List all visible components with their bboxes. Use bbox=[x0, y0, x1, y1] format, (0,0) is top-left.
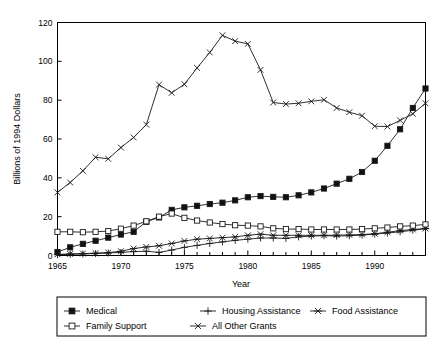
data-point-open-square bbox=[385, 225, 390, 230]
data-point-filled-square bbox=[207, 201, 212, 206]
grant-spending-line-chart: 020406080100120 196519701975198019851990… bbox=[0, 0, 446, 341]
data-point-filled-square bbox=[68, 245, 73, 250]
data-point-open-square bbox=[69, 323, 75, 329]
x-axis-title: Year bbox=[232, 279, 250, 289]
x-tick-label: 1965 bbox=[48, 261, 67, 271]
data-point-filled-square bbox=[423, 86, 428, 91]
data-point-open-square bbox=[169, 211, 174, 216]
data-point-filled-square bbox=[321, 186, 326, 191]
data-point-open-square bbox=[321, 227, 326, 232]
data-point-open-square bbox=[309, 227, 314, 232]
data-point-open-square bbox=[156, 214, 161, 219]
data-point-open-square bbox=[55, 229, 60, 234]
y-tick-label: 20 bbox=[43, 212, 53, 222]
x-tick-label: 1970 bbox=[111, 261, 130, 271]
data-point-open-square bbox=[93, 229, 98, 234]
data-point-filled-square bbox=[359, 169, 364, 174]
data-point-filled-square bbox=[118, 232, 123, 237]
data-point-filled-square bbox=[194, 203, 199, 208]
data-point-open-square bbox=[80, 230, 85, 235]
data-point-open-square bbox=[258, 224, 263, 229]
data-point-open-square bbox=[398, 224, 403, 229]
data-point-filled-square bbox=[69, 308, 75, 314]
data-point-open-square bbox=[106, 228, 111, 233]
data-point-open-square bbox=[182, 215, 187, 220]
data-point-open-square bbox=[194, 218, 199, 223]
data-point-filled-square bbox=[334, 181, 339, 186]
x-tick-label: 1980 bbox=[238, 261, 257, 271]
y-axis-title: Billions of 1994 Dollars bbox=[12, 93, 22, 185]
data-point-filled-square bbox=[372, 158, 377, 163]
y-tick-label: 60 bbox=[43, 134, 53, 144]
data-point-filled-square bbox=[233, 198, 238, 203]
data-point-open-square bbox=[220, 221, 225, 226]
y-tick-label: 100 bbox=[38, 56, 52, 66]
data-point-open-square bbox=[372, 226, 377, 231]
data-point-filled-square bbox=[347, 176, 352, 181]
data-point-filled-square bbox=[80, 241, 85, 246]
legend-label: Family Support bbox=[86, 321, 147, 331]
data-point-open-square bbox=[423, 222, 428, 227]
data-point-open-square bbox=[131, 223, 136, 228]
y-tick-label: 120 bbox=[38, 18, 52, 28]
data-point-filled-square bbox=[296, 193, 301, 198]
data-point-open-square bbox=[283, 226, 288, 231]
chart-background bbox=[0, 0, 446, 341]
legend-label: Housing Assistance bbox=[222, 306, 301, 316]
legend-label: Medical bbox=[86, 306, 117, 316]
data-point-open-square bbox=[233, 223, 238, 228]
y-tick-label: 40 bbox=[43, 173, 53, 183]
data-point-filled-square bbox=[106, 235, 111, 240]
y-tick-label: 80 bbox=[43, 95, 53, 105]
x-tick-label: 1990 bbox=[365, 261, 384, 271]
data-point-open-square bbox=[68, 229, 73, 234]
data-point-open-square bbox=[118, 226, 123, 231]
data-point-open-square bbox=[207, 220, 212, 225]
legend-label: Food Assistance bbox=[332, 306, 398, 316]
data-point-filled-square bbox=[309, 190, 314, 195]
data-point-open-square bbox=[334, 227, 339, 232]
data-point-filled-square bbox=[131, 229, 136, 234]
data-point-open-square bbox=[245, 223, 250, 228]
data-point-open-square bbox=[296, 226, 301, 231]
data-point-filled-square bbox=[93, 238, 98, 243]
data-point-open-square bbox=[144, 219, 149, 224]
chart-figure: 020406080100120 196519701975198019851990… bbox=[0, 0, 446, 341]
data-point-filled-square bbox=[385, 143, 390, 148]
data-point-filled-square bbox=[283, 195, 288, 200]
data-point-filled-square bbox=[271, 194, 276, 199]
data-point-open-square bbox=[271, 226, 276, 231]
data-point-open-square bbox=[410, 223, 415, 228]
x-tick-label: 1985 bbox=[302, 261, 321, 271]
data-point-filled-square bbox=[258, 193, 263, 198]
data-point-open-square bbox=[347, 227, 352, 232]
data-point-filled-square bbox=[182, 205, 187, 210]
data-point-filled-square bbox=[245, 195, 250, 200]
y-tick-label: 0 bbox=[48, 251, 53, 261]
data-point-filled-square bbox=[410, 105, 415, 110]
data-point-filled-square bbox=[220, 200, 225, 205]
data-point-open-square bbox=[359, 226, 364, 231]
legend-label: All Other Grants bbox=[212, 321, 277, 331]
x-tick-label: 1975 bbox=[175, 261, 194, 271]
data-point-filled-square bbox=[398, 127, 403, 132]
